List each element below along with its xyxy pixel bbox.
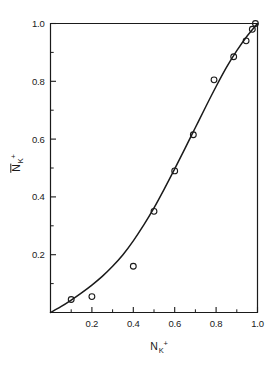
y-tick-label: 1.0 [32, 18, 45, 29]
x-tick-label: 0.4 [127, 318, 140, 329]
y-tick-label: 0.2 [32, 249, 45, 260]
axis-title-superscript: + [9, 154, 18, 159]
data-point-marker [130, 263, 136, 269]
x-tick-label: 0.2 [86, 318, 99, 329]
data-point-marker [89, 294, 95, 300]
x-axis-title: NK+ [150, 339, 168, 355]
chart-figure: 0.20.40.60.81.00.20.40.60.81.0 NK+NK+ [0, 0, 280, 367]
axis-title-base: N [10, 164, 22, 172]
curve-path [51, 24, 258, 313]
x-tick-label: 1.0 [251, 318, 264, 329]
axis-title-superscript: + [163, 339, 168, 348]
axis-title-base: N [150, 340, 158, 352]
data-point-marker [211, 77, 217, 83]
y-tick-label: 0.4 [32, 191, 45, 202]
y-tick-label: 0.6 [32, 134, 45, 145]
y-tick-label: 0.8 [32, 76, 45, 87]
x-tick-label: 0.8 [210, 318, 223, 329]
x-tick-label: 0.6 [168, 318, 181, 329]
y-axis-title: NK+ [9, 154, 25, 173]
fitted-curve [51, 24, 258, 313]
scatter-plot: 0.20.40.60.81.00.20.40.60.81.0 NK+NK+ [0, 0, 280, 367]
